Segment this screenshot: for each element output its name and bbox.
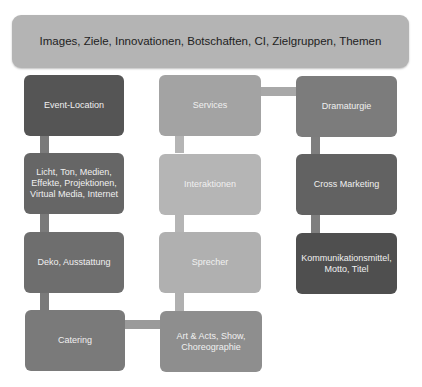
box-sprecher: Sprecher	[159, 232, 261, 293]
box-label: Interaktionen	[184, 179, 236, 190]
box-label: Deko, Ausstattung	[37, 257, 110, 268]
box-services: Services	[159, 75, 261, 136]
header-text: Images, Ziele, Innovationen, Botschaften…	[40, 36, 382, 47]
box-label: Sprecher	[192, 257, 229, 268]
box-art-acts: Art & Acts, Show, Choreographie	[160, 311, 262, 372]
box-event-location: Event-Location	[24, 75, 124, 136]
box-catering: Catering	[25, 310, 125, 371]
box-label: Licht, Ton, Medien, Effekte, Projektione…	[28, 167, 120, 200]
connector	[40, 293, 49, 310]
box-interaktionen: Interaktionen	[159, 154, 261, 215]
box-licht-ton-medien: Licht, Ton, Medien, Effekte, Projektione…	[24, 153, 124, 214]
box-dramaturgie: Dramaturgie	[296, 76, 397, 137]
connector	[311, 215, 320, 233]
connector	[311, 137, 320, 154]
connector	[175, 215, 184, 232]
connector	[261, 87, 296, 96]
box-label: Dramaturgie	[322, 101, 372, 112]
box-label: Event-Location	[44, 100, 104, 111]
box-label: Cross Marketing	[314, 179, 380, 190]
connector	[40, 214, 49, 232]
connector	[175, 136, 184, 153]
box-cross-marketing: Cross Marketing	[296, 154, 397, 215]
connector	[125, 320, 160, 329]
header-box: Images, Ziele, Innovationen, Botschaften…	[12, 15, 409, 68]
box-label: Services	[193, 100, 228, 111]
box-label: Kommunikationsmittel, Motto, Titel	[300, 253, 393, 275]
box-kommunikationsmittel: Kommunikationsmittel, Motto, Titel	[296, 233, 397, 294]
box-deko-ausstattung: Deko, Ausstattung	[24, 232, 124, 293]
box-label: Art & Acts, Show, Choreographie	[164, 331, 258, 353]
connector	[175, 293, 184, 311]
box-label: Catering	[58, 335, 92, 346]
connector	[40, 136, 49, 153]
